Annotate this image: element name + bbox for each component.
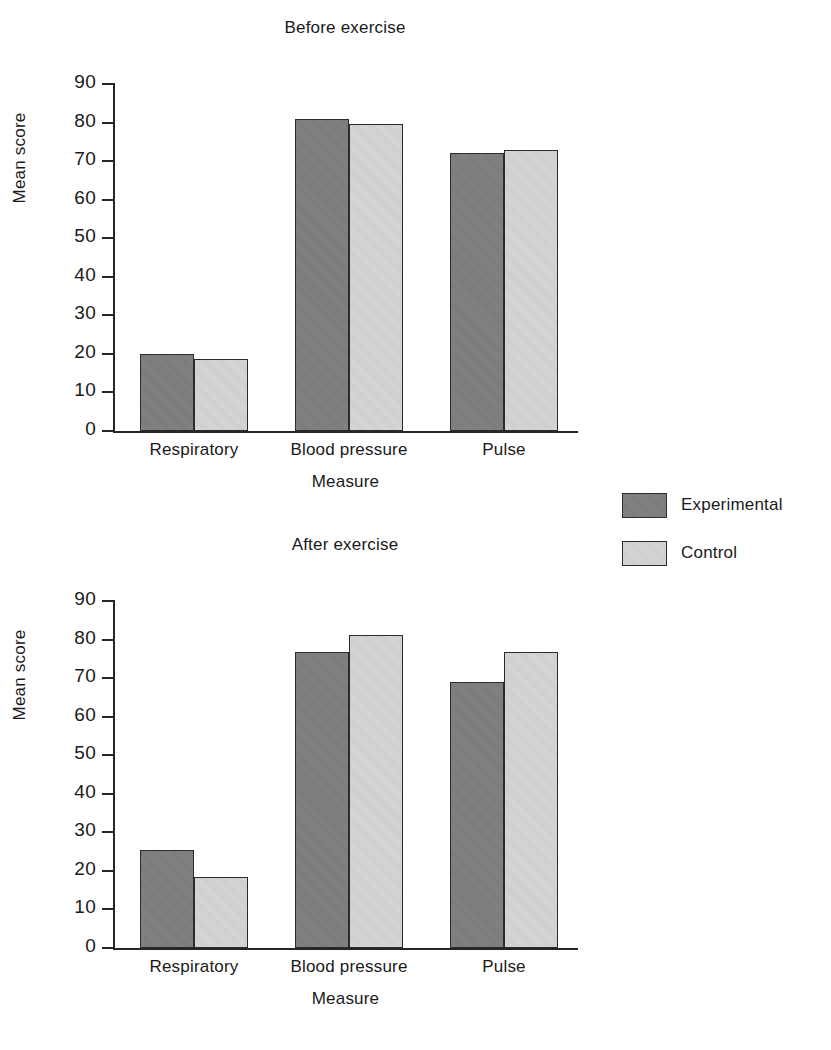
bar-control-pulse xyxy=(504,652,558,948)
y-axis-tick: 30 xyxy=(102,831,113,833)
legend-item-label: Control xyxy=(681,543,737,563)
y-axis-tick-label: 30 xyxy=(54,820,96,840)
y-axis-tick-label: 60 xyxy=(54,705,96,725)
y-axis-tick-label: 40 xyxy=(54,265,96,285)
y-axis-tick: 80 xyxy=(102,639,113,641)
y-axis-tick: 20 xyxy=(102,870,113,872)
x-axis-line xyxy=(113,948,578,950)
legend-item-control: Control xyxy=(622,540,827,566)
chart-title: After exercise xyxy=(110,535,580,555)
y-axis-tick: 90 xyxy=(102,600,113,602)
bar-control-blood-pressure xyxy=(349,124,403,431)
y-axis-label: Mean score xyxy=(10,88,30,228)
y-axis-tick-label: 60 xyxy=(54,188,96,208)
y-axis-tick-label: 50 xyxy=(54,226,96,246)
y-axis-tick: 40 xyxy=(102,793,113,795)
y-axis-tick: 50 xyxy=(102,237,113,239)
y-axis-tick: 0 xyxy=(102,430,113,432)
x-axis-label: Measure xyxy=(113,472,578,492)
y-axis-tick-label: 90 xyxy=(54,72,96,92)
x-axis-tick-label: Pulse xyxy=(444,957,564,977)
bar-experimental-respiratory xyxy=(140,850,194,948)
x-axis-line xyxy=(113,431,578,433)
y-axis-tick-label: 10 xyxy=(54,380,96,400)
x-axis-tick-label: Respiratory xyxy=(134,957,254,977)
legend-item-label: Experimental xyxy=(681,495,783,515)
y-axis-line xyxy=(113,600,115,949)
bar-experimental-blood-pressure xyxy=(295,119,349,431)
x-axis-tick-label: Pulse xyxy=(444,440,564,460)
chart-panel-before-exercise: Before exercise Mean score 9080706050403… xyxy=(0,18,600,498)
y-axis-tick-label: 80 xyxy=(54,111,96,131)
x-axis-tick-label: Respiratory xyxy=(134,440,254,460)
y-axis-tick: 10 xyxy=(102,908,113,910)
legend-swatch-icon xyxy=(622,541,667,566)
bar-control-respiratory xyxy=(194,359,248,431)
y-axis-tick: 70 xyxy=(102,160,113,162)
y-axis-tick: 10 xyxy=(102,391,113,393)
y-axis-tick: 50 xyxy=(102,754,113,756)
y-axis-tick-label: 50 xyxy=(54,743,96,763)
bar-control-respiratory xyxy=(194,877,248,948)
chart-legend: Experimental Control xyxy=(622,492,827,588)
y-axis-tick: 60 xyxy=(102,716,113,718)
y-axis-tick-label: 90 xyxy=(54,589,96,609)
chart-panel-after-exercise: After exercise Mean score 90807060504030… xyxy=(0,535,600,1035)
y-axis-tick: 0 xyxy=(102,947,113,949)
bar-experimental-pulse xyxy=(450,153,504,431)
y-axis-tick-label: 20 xyxy=(54,342,96,362)
y-axis-tick: 40 xyxy=(102,276,113,278)
y-axis-line xyxy=(113,83,115,432)
y-axis-tick: 30 xyxy=(102,314,113,316)
y-axis-tick-label: 20 xyxy=(54,859,96,879)
bar-control-blood-pressure xyxy=(349,635,403,948)
y-axis-tick-label: 10 xyxy=(54,897,96,917)
y-axis-tick-label: 0 xyxy=(54,419,96,439)
bar-experimental-pulse xyxy=(450,682,504,948)
legend-swatch-icon xyxy=(622,493,667,518)
x-axis-tick-label: Blood pressure xyxy=(289,440,409,460)
plot-area: 9080706050403020100 RespiratoryBlood pre… xyxy=(113,84,578,431)
bar-experimental-respiratory xyxy=(140,354,194,431)
y-axis-tick-label: 70 xyxy=(54,666,96,686)
y-axis-tick: 60 xyxy=(102,199,113,201)
y-axis-tick: 90 xyxy=(102,83,113,85)
chart-title: Before exercise xyxy=(110,18,580,38)
bar-control-pulse xyxy=(504,150,558,431)
y-axis-tick-label: 30 xyxy=(54,303,96,323)
y-axis-tick-label: 40 xyxy=(54,782,96,802)
y-axis-tick: 70 xyxy=(102,677,113,679)
y-axis-tick-label: 80 xyxy=(54,628,96,648)
figure-canvas: Before exercise Mean score 9080706050403… xyxy=(0,0,831,1050)
y-axis-tick-label: 70 xyxy=(54,149,96,169)
y-axis-tick-label: 0 xyxy=(54,936,96,956)
y-axis-label: Mean score xyxy=(10,605,30,745)
legend-item-experimental: Experimental xyxy=(622,492,827,518)
x-axis-label: Measure xyxy=(113,989,578,1009)
bar-experimental-blood-pressure xyxy=(295,652,349,948)
x-axis-tick-label: Blood pressure xyxy=(289,957,409,977)
y-axis-tick: 80 xyxy=(102,122,113,124)
y-axis-tick: 20 xyxy=(102,353,113,355)
plot-area: 9080706050403020100 RespiratoryBlood pre… xyxy=(113,601,578,948)
